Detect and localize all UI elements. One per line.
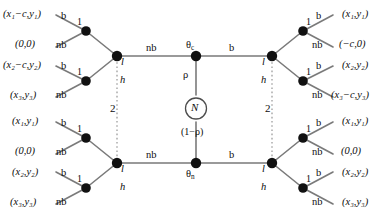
edge-label-b-bottom-right: b (229, 150, 234, 161)
player1-label-tl-h: 1 (77, 67, 82, 77)
payoff-bl2: (0,0) (15, 146, 35, 157)
response-label-l-top-left: l (121, 57, 124, 68)
edge-l-bottom-left (86, 138, 117, 163)
node-p1-bl-l (81, 133, 91, 143)
payoff-br4: (x₃,y₃) (342, 197, 368, 208)
action-label-b-br1: b (316, 118, 321, 129)
payoff-bl4: (x₃,y₃) (10, 197, 36, 208)
action-label-nb-tr2: nb (312, 90, 323, 101)
action-label-b-bl2: b (61, 168, 66, 179)
node-theta-c (191, 51, 201, 61)
node-p1-br-h (298, 183, 308, 193)
edge-h-top-right (272, 56, 303, 81)
edge-h-bottom-left (86, 163, 117, 188)
response-label-h-bottom-right: h (261, 182, 266, 193)
player1-label-tr-l: 1 (306, 17, 311, 27)
action-label-nb-br2: nb (312, 197, 323, 208)
payoff-bl1: (x₁,y₁) (12, 116, 38, 127)
game-tree-diagram: θc θn ρ (1−ρ) N nb b nb b 2 2 l h 1 1 b … (0, 0, 385, 218)
action-label-nb-bl1: nb (56, 147, 67, 158)
node-p1-tr-l (298, 26, 308, 36)
action-label-b-br2: b (316, 168, 321, 179)
node-p1-tl-h (81, 76, 91, 86)
payoff-tr4: (x₃−c,y₃) (331, 90, 369, 101)
action-label-b-bl1: b (61, 118, 66, 129)
node-theta-n (191, 158, 201, 168)
player1-label-tl-l: 1 (77, 17, 82, 27)
action-label-nb-bl2: nb (56, 197, 67, 208)
edge-label-nb-bottom-left: nb (146, 150, 157, 161)
player1-label-bl-h: 1 (77, 174, 82, 184)
player1-label-br-h: 1 (306, 174, 311, 184)
theta-c-label: θc (186, 40, 194, 51)
payoff-tl2: (0,0) (15, 39, 35, 50)
node-p2-bottom-right (267, 158, 277, 168)
one-minus-rho-label: (1−ρ) (181, 127, 203, 137)
player1-label-br-l: 1 (306, 124, 311, 134)
action-label-b-tr1: b (316, 11, 321, 22)
node-p1-bl-h (81, 183, 91, 193)
response-label-l-bottom-left: l (121, 164, 124, 175)
node-p1-tl-l (81, 26, 91, 36)
response-label-l-top-right: l (262, 57, 265, 68)
payoff-tr3: (x₂,y₂) (342, 60, 368, 71)
node-p1-br-l (298, 133, 308, 143)
edge-label-b-top-right: b (229, 43, 234, 54)
infoset-label-left: 2 (110, 103, 116, 114)
payoff-br1: (x₁,y₁) (342, 116, 368, 127)
node-p2-top-right (267, 51, 277, 61)
edge-h-top-left (86, 56, 117, 81)
response-label-h-bottom-left: h (120, 182, 125, 193)
payoff-br3: (x₂,y₂) (342, 167, 368, 178)
edge-l-top-left (86, 31, 117, 56)
action-label-nb-tl1: nb (56, 40, 67, 51)
response-label-h-top-left: h (120, 75, 125, 86)
edge-h-bottom-right (272, 163, 303, 188)
payoff-tl3: (x₂−c,y₂) (3, 60, 41, 71)
response-label-h-top-right: h (261, 75, 266, 86)
action-label-nb-tr1: nb (312, 40, 323, 51)
action-label-b-tl2: b (61, 61, 66, 72)
player1-label-tr-h: 1 (306, 67, 311, 77)
payoff-tr2: (−c,0) (339, 39, 366, 50)
payoff-tl1: (x₁−c,y₁) (3, 9, 41, 20)
theta-n-label: θn (186, 169, 195, 180)
edge-label-nb-top-left: nb (146, 43, 157, 54)
infoset-label-right: 2 (265, 103, 271, 114)
payoff-br2: (0,0) (341, 146, 361, 157)
player1-label-bl-l: 1 (77, 124, 82, 134)
response-label-l-bottom-right: l (262, 164, 265, 175)
edge-l-top-right (272, 31, 303, 56)
action-label-b-tl1: b (61, 11, 66, 22)
payoff-tl4: (x₃,y₃) (10, 90, 36, 101)
payoff-tr1: (x₁,y₁) (342, 9, 368, 20)
action-label-nb-br1: nb (312, 147, 323, 158)
rho-label: ρ (183, 70, 188, 81)
action-label-nb-tl2: nb (56, 90, 67, 101)
node-p1-tr-h (298, 76, 308, 86)
nature-node-label: N (191, 102, 198, 113)
payoff-bl3: (x₂,y₂) (12, 167, 38, 178)
action-label-b-tr2: b (316, 61, 321, 72)
edge-l-bottom-right (272, 138, 303, 163)
